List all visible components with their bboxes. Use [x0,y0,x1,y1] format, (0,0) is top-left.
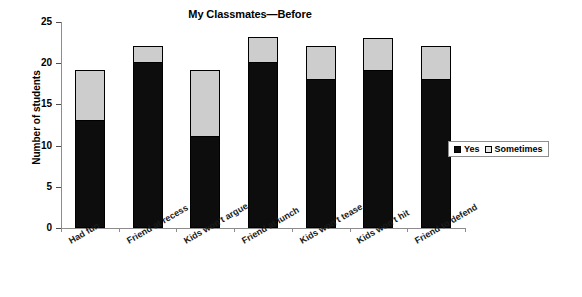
y-tick-25 [56,22,61,23]
bar-group[interactable] [421,22,451,228]
y-tick-label-5: 5 [20,182,52,192]
bar-chart: My Classmates—Before Number of students … [0,0,582,297]
legend-item-sometimes[interactable]: Sometimes [485,145,543,154]
bar-group[interactable] [190,22,220,228]
bar-segment[interactable] [133,62,163,228]
bar-segment[interactable] [421,46,451,80]
chart-title: My Classmates—Before [150,8,350,20]
bar-segment[interactable] [75,70,105,120]
bar-group[interactable] [248,22,278,228]
bar-group[interactable] [75,22,105,228]
bar-segment[interactable] [306,46,336,80]
y-tick-label-20: 20 [20,58,52,68]
bar-segment[interactable] [306,79,336,228]
bar-segment[interactable] [248,62,278,228]
y-tick-label-0: 0 [20,223,52,233]
x-tick-4 [292,228,293,232]
x-tick-7 [465,228,466,232]
y-tick-label-25: 25 [20,17,52,27]
y-tick-10 [56,146,61,147]
bar-segment[interactable] [363,38,393,72]
y-axis-line [61,22,62,229]
bar-group[interactable] [306,22,336,228]
y-tick-label-15: 15 [20,99,52,109]
x-tick-2 [176,228,177,232]
x-tick-1 [119,228,120,232]
y-tick-5 [56,187,61,188]
black-square-icon [454,146,461,153]
light-square-icon [485,146,492,153]
bar-group[interactable] [363,22,393,228]
y-tick-20 [56,63,61,64]
bar-group[interactable] [133,22,163,228]
bar-segment[interactable] [190,70,220,137]
bar-segment[interactable] [421,79,451,228]
x-tick-6 [407,228,408,232]
bar-segment[interactable] [133,46,163,63]
x-tick-3 [234,228,235,232]
y-tick-15 [56,104,61,105]
bar-segment[interactable] [190,136,220,228]
y-tick-label-10: 10 [20,141,52,151]
x-tick-5 [350,228,351,232]
legend-label-yes: Yes [464,145,480,154]
legend: Yes Sometimes [448,141,549,157]
legend-item-yes[interactable]: Yes [454,145,480,154]
legend-label-sometimes: Sometimes [495,145,543,154]
bar-segment[interactable] [75,120,105,228]
bar-segment[interactable] [363,70,393,228]
bar-segment[interactable] [248,37,278,63]
x-tick-0 [61,228,62,232]
